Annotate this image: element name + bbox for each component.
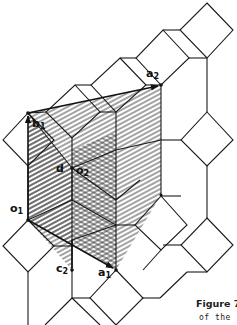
- label-a2: a2: [146, 68, 159, 81]
- label-o2: o2: [76, 165, 89, 178]
- label-d: d: [56, 163, 64, 174]
- label-o1: o1: [10, 203, 23, 216]
- figure-caption-continuation: of the: [199, 313, 231, 322]
- figure-caption-title: Figure 7.: [196, 298, 237, 309]
- label-b1: b1: [32, 118, 45, 131]
- label-a1: a1: [98, 267, 111, 280]
- label-c2: c2: [56, 263, 68, 276]
- lattice-diagram: [0, 0, 237, 325]
